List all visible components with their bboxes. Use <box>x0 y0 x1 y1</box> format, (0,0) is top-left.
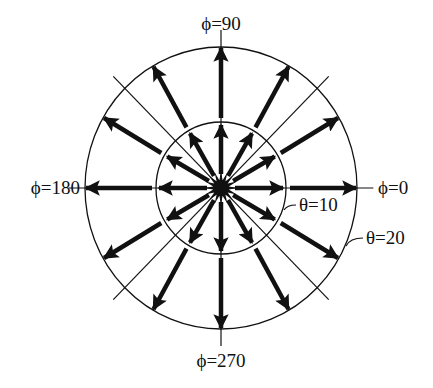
label-phi-90: ϕ=90 <box>201 13 241 34</box>
label-phi-0: ϕ=0 <box>378 177 408 198</box>
outer-arrow-150 <box>104 118 161 153</box>
label-phi-270: ϕ=270 <box>196 350 245 371</box>
outer-arrow-240 <box>154 249 187 310</box>
label-phi-180: ϕ=180 <box>31 177 80 198</box>
outer-arrow-300 <box>256 249 289 310</box>
center-starburst <box>204 171 238 205</box>
polar-diagram: ϕ=90 ϕ=180 ϕ=0 ϕ=270 θ=10 θ=20 <box>0 0 433 388</box>
outer-arrow-210 <box>104 223 161 258</box>
label-theta-10: θ=10 <box>299 194 338 215</box>
outer-arrow-120 <box>154 67 187 128</box>
leader-theta-10 <box>284 205 296 210</box>
label-theta-20: θ=20 <box>366 227 405 248</box>
leader-theta-20 <box>346 238 363 246</box>
outer-arrow-30 <box>281 118 338 153</box>
outer-arrow-330 <box>281 223 338 258</box>
outer-arrow-60 <box>256 67 289 128</box>
